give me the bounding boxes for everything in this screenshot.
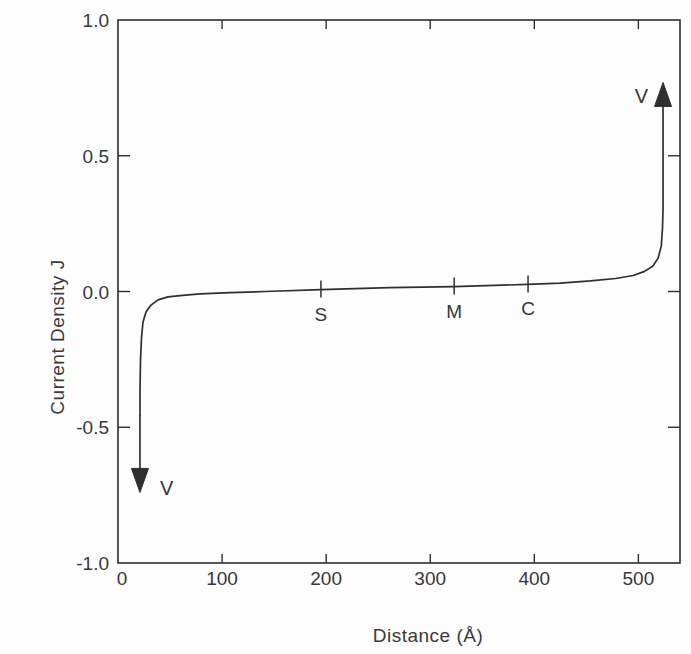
region-marker-label: S xyxy=(315,304,328,325)
voltage-label: V xyxy=(635,85,649,107)
x-axis-title: Distance (Å) xyxy=(373,625,484,647)
x-tick-label: 100 xyxy=(206,568,238,589)
x-tick-label: 200 xyxy=(310,568,342,589)
divergence-arrow-head xyxy=(131,468,148,492)
y-axis-title: Current Density J xyxy=(47,259,69,414)
x-tick-label: 0 xyxy=(117,568,128,589)
y-tick-label: -0.5 xyxy=(76,417,109,438)
plot-frame xyxy=(118,20,680,563)
plot-area: 0100200300400500-1.0-0.50.00.51.0SMCVV xyxy=(0,0,691,654)
region-marker-label: M xyxy=(446,301,462,322)
region-marker-label: C xyxy=(521,298,535,319)
y-tick-label: -1.0 xyxy=(76,553,109,574)
divergence-arrow-head xyxy=(655,82,672,106)
x-tick-label: 400 xyxy=(518,568,550,589)
y-tick-label: 0.5 xyxy=(83,146,109,167)
figure-container: 0100200300400500-1.0-0.50.00.51.0SMCVV C… xyxy=(0,0,691,654)
x-tick-label: 500 xyxy=(623,568,655,589)
x-tick-label: 300 xyxy=(414,568,446,589)
y-tick-label: 0.0 xyxy=(83,282,109,303)
y-tick-label: 1.0 xyxy=(83,10,109,31)
current-density-curve xyxy=(140,210,663,415)
voltage-label: V xyxy=(160,477,174,499)
